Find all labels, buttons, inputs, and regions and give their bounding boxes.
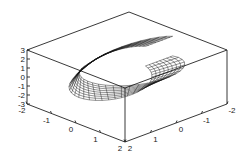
y-tick-label: -1 [203, 116, 211, 125]
x-tick-label: -2 [18, 106, 26, 115]
x-tick-label: -1 [43, 116, 51, 125]
mesh-line-u [80, 46, 185, 86]
y-tick-label: 1 [153, 135, 158, 144]
y-tick-label: 0 [179, 125, 184, 134]
mesh-line-v [79, 77, 81, 97]
mesh-line-v [151, 62, 184, 72]
mesh-line-v [95, 54, 107, 60]
surface-mesh [69, 36, 185, 100]
x-tick-label: 2 [118, 144, 123, 153]
mesh-line-u [76, 43, 172, 91]
mesh-line-u [69, 36, 173, 100]
mesh-line-v [148, 57, 179, 68]
z-tick-label: 0 [21, 73, 26, 82]
box-top-edge [27, 50, 125, 88]
z-axis-ticks: 3210-1-2-3 [18, 46, 30, 109]
mesh-line-v [103, 52, 112, 55]
z-tick-label: -1 [18, 82, 26, 91]
y-tick-label: -2 [228, 106, 236, 115]
z-tick-label: 3 [21, 46, 26, 55]
box-top-edge [27, 12, 129, 50]
z-tick-label: -2 [18, 91, 26, 100]
y-tick-label: 2 [128, 144, 133, 153]
x-axis-ticks: -2-1012 [18, 102, 125, 154]
axes-box [27, 12, 227, 142]
y-axis-ticks: 210-1-2 [125, 102, 236, 154]
z-tick-label: 2 [21, 55, 26, 64]
mesh-line-u [71, 37, 170, 98]
z-tick-label: 1 [21, 64, 26, 73]
x-tick-label: 1 [93, 135, 98, 144]
surface-plot: 3210-1-2-3 -2-1012 210-1-2 [0, 0, 249, 167]
x-tick-label: 0 [69, 125, 74, 134]
mesh-line-u [79, 45, 181, 87]
